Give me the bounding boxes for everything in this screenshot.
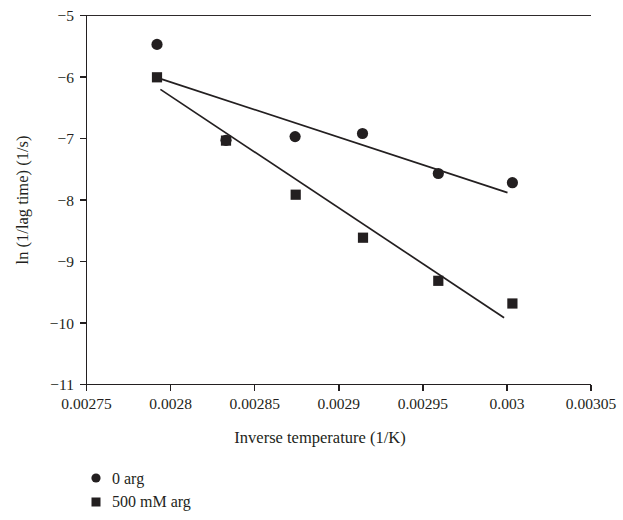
data-point-square xyxy=(152,72,162,82)
y-tick-label: −7 xyxy=(58,130,75,147)
data-point-circle xyxy=(507,177,518,188)
x-axis-ticks xyxy=(87,385,592,392)
y-tick-label: −6 xyxy=(58,69,75,86)
chart-canvas: −5 −6 −7 −8 −9 −10 −11 0.00275 0.0028 0.… xyxy=(0,0,623,520)
data-point-square xyxy=(507,298,517,308)
data-point-circle xyxy=(151,39,162,50)
series-0-arg-points xyxy=(151,39,518,188)
x-tick-label: 0.00305 xyxy=(566,395,617,412)
data-point-square xyxy=(291,190,301,200)
y-tick-label: −8 xyxy=(58,192,75,209)
legend-label: 0 arg xyxy=(112,470,144,488)
y-tick-label: −11 xyxy=(50,376,74,393)
legend-circle-icon xyxy=(91,473,100,482)
trend-line-0-arg xyxy=(157,78,508,193)
x-axis-tick-labels: 0.00275 0.0028 0.00285 0.0029 0.00295 0.… xyxy=(61,395,616,412)
trend-line-500mm-arg xyxy=(160,89,504,317)
x-tick-label: 0.00275 xyxy=(61,395,112,412)
y-tick-label: −9 xyxy=(58,253,75,270)
data-point-circle xyxy=(357,128,368,139)
data-point-square xyxy=(358,233,368,243)
x-tick-label: 0.0029 xyxy=(317,395,360,412)
y-axis-ticks xyxy=(80,16,87,385)
y-axis-tick-labels: −5 −6 −7 −8 −9 −10 −11 xyxy=(50,7,74,393)
x-tick-label: 0.003 xyxy=(490,395,525,412)
axis-frame xyxy=(87,16,592,385)
y-tick-label: −10 xyxy=(50,315,74,332)
y-tick-label: −5 xyxy=(58,7,75,24)
y-axis-title: ln (1/lag time) (1/s) xyxy=(13,136,32,265)
plot-axes xyxy=(87,16,592,385)
legend-square-icon xyxy=(92,498,101,507)
series-500mm-arg-points xyxy=(152,72,518,308)
x-tick-label: 0.00295 xyxy=(398,395,449,412)
data-point-circle xyxy=(433,168,444,179)
legend-item-500mm-arg: 500 mM arg xyxy=(92,493,191,511)
arrhenius-plot-figure: −5 −6 −7 −8 −9 −10 −11 0.00275 0.0028 0.… xyxy=(0,0,623,520)
legend-item-0-arg: 0 arg xyxy=(91,470,144,488)
chart-legend: 0 arg 500 mM arg xyxy=(91,470,190,511)
x-tick-label: 0.0028 xyxy=(149,395,192,412)
x-tick-label: 0.00285 xyxy=(230,395,281,412)
data-point-square xyxy=(221,136,231,146)
trend-lines xyxy=(157,78,508,318)
legend-label: 500 mM arg xyxy=(112,493,191,511)
data-point-circle xyxy=(290,131,301,142)
x-axis-title: Inverse temperature (1/K) xyxy=(234,428,405,447)
data-point-square xyxy=(433,276,443,286)
